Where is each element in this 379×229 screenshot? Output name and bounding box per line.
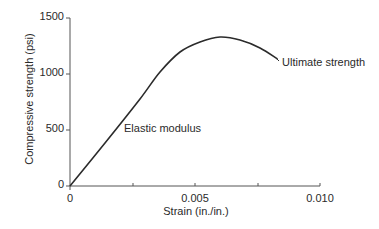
x-tick-label-0.005: 0.005 [170,192,220,204]
x-axis-label: Strain (in./in.) [136,205,256,217]
annotation-elastic-modulus: Elastic modulus [124,122,201,134]
x-tick-label-0: 0 [45,192,95,204]
ultimate-leader [277,59,279,61]
annotation-ultimate-strength: Ultimate strength [282,56,365,68]
y-axis-label: Compressive strength (psi) [23,19,35,179]
y-tick-label-0: 0 [24,178,64,190]
stress-strain-curve [70,37,278,186]
x-tick-label-0.010: 0.010 [295,192,345,204]
